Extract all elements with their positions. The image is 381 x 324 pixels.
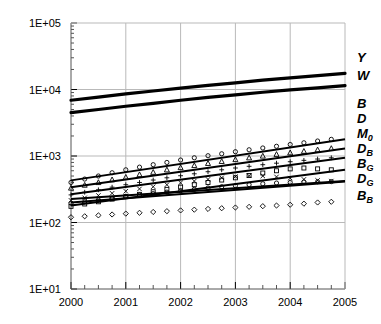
legend-label: D [357, 111, 367, 126]
data-point-diamond [219, 206, 224, 211]
data-point-diamond [82, 214, 87, 219]
data-point-plus [219, 167, 224, 172]
data-point-circle [220, 152, 224, 156]
legend-subscript: B [366, 195, 373, 205]
data-point-triangle [192, 163, 197, 168]
x-tick-label: 2003 [223, 296, 247, 308]
data-point-triangle [219, 159, 224, 164]
data-point-diamond [274, 203, 279, 208]
data-point-circle [137, 165, 141, 169]
data-point-square [275, 169, 279, 173]
x-tick-label: 2000 [59, 296, 83, 308]
data-point-plus [151, 178, 156, 183]
data-point-circle [274, 144, 278, 148]
data-point-triangle [151, 170, 156, 175]
x-tick-label: 2004 [278, 296, 302, 308]
y-tick-label: 1E+04 [29, 84, 61, 96]
x-tick-label: 2005 [333, 296, 357, 308]
data-point-plus [288, 159, 293, 164]
legend-label: W [357, 68, 371, 83]
y-tick-label: 1E+02 [29, 217, 61, 229]
legend-item-BB[interactable]: BB [357, 188, 373, 205]
data-point-square [302, 166, 306, 170]
data-point-diamond [315, 200, 320, 205]
data-point-triangle [164, 167, 169, 172]
data-point-triangle [301, 149, 306, 154]
legend-subscript: B [366, 148, 373, 158]
legend-label: B [357, 96, 366, 111]
legend-item-D[interactable]: D [357, 111, 367, 126]
data-point-diamond [247, 204, 252, 209]
y-axis-tick-labels: 1E+011E+021E+031E+041E+05 [29, 17, 61, 295]
data-series-group [68, 73, 345, 219]
legend-item-DG[interactable]: DG [357, 171, 373, 188]
legend-subscript: G [366, 178, 373, 188]
x-tick-label: 2001 [114, 296, 138, 308]
data-point-cross [137, 187, 141, 191]
data-point-diamond [301, 201, 306, 206]
data-point-diamond [96, 213, 101, 218]
data-point-diamond [110, 212, 115, 217]
data-point-plus [165, 175, 170, 180]
y-tick-label: 1E+01 [29, 283, 61, 295]
legend-item-W[interactable]: W [357, 68, 371, 83]
data-point-cross [206, 177, 210, 181]
legend-subscript: G [366, 163, 373, 173]
data-point-triangle [206, 161, 211, 166]
data-point-circle [261, 146, 265, 150]
data-point-diamond [137, 210, 142, 215]
legend: YWBDM0DBBGDGBB [357, 50, 373, 205]
series-BB [68, 199, 334, 220]
data-point-plus [178, 173, 183, 178]
data-point-circle [165, 160, 169, 164]
x-tick-label: 2002 [168, 296, 192, 308]
legend-item-B[interactable]: B [357, 96, 366, 111]
grid-lines [71, 23, 345, 289]
data-point-cross [151, 185, 155, 189]
data-point-diamond [205, 206, 210, 211]
data-point-cross [261, 174, 265, 178]
data-point-square [192, 183, 196, 187]
data-point-cross [165, 183, 169, 187]
data-point-circle [261, 182, 265, 186]
data-point-triangle [315, 147, 320, 152]
data-point-plus [260, 162, 265, 167]
data-point-plus [206, 169, 211, 174]
data-point-diamond [192, 207, 197, 212]
data-point-diamond [329, 199, 334, 204]
data-point-plus [82, 190, 87, 195]
legend-item-Y[interactable]: Y [357, 50, 367, 65]
legend-label: DG [357, 171, 373, 188]
data-point-circle [247, 148, 251, 152]
legend-subscript: 0 [368, 133, 373, 143]
x-axis-tick-labels: 200020012002200320042005 [59, 296, 357, 308]
legend-label: Y [357, 50, 367, 65]
series-DB [69, 166, 333, 208]
data-point-plus [233, 166, 238, 171]
data-point-circle [274, 181, 278, 185]
data-point-circle [302, 141, 306, 145]
data-point-diamond [151, 209, 156, 214]
trend-line [71, 148, 345, 187]
data-point-diamond [164, 209, 169, 214]
log-line-chart: 200020012002200320042005 1E+011E+021E+03… [0, 0, 381, 324]
data-point-cross [110, 191, 114, 195]
legend-label: BB [357, 188, 373, 205]
y-tick-label: 1E+05 [29, 17, 61, 29]
data-point-plus [302, 158, 307, 163]
chart-container: 200020012002200320042005 1E+011E+021E+03… [0, 0, 381, 324]
data-point-plus [274, 161, 279, 166]
data-point-triangle [137, 172, 142, 177]
data-point-circle [151, 163, 155, 167]
data-point-square [316, 167, 320, 171]
data-point-plus [192, 171, 197, 176]
y-tick-label: 1E+03 [29, 150, 61, 162]
data-point-diamond [260, 204, 265, 209]
data-point-plus [247, 164, 252, 169]
